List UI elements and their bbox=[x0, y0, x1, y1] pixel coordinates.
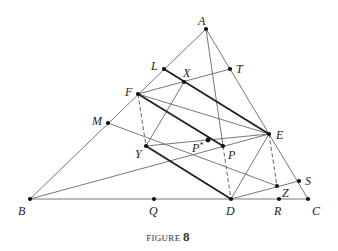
segment-d-e bbox=[231, 134, 269, 199]
point-s bbox=[297, 179, 301, 183]
label-b: B bbox=[18, 204, 26, 218]
point-pstar bbox=[206, 138, 211, 143]
segment-d-s bbox=[231, 181, 299, 199]
figure-8-diagram: ABCDEFLMTXYPP*QRSZ FIGURE 8 bbox=[0, 0, 338, 251]
point-e bbox=[267, 132, 271, 136]
label-q: Q bbox=[149, 204, 158, 218]
label-f: F bbox=[124, 85, 133, 99]
segment-a-p bbox=[206, 29, 223, 146]
label-p: P bbox=[227, 148, 236, 162]
point-c bbox=[306, 197, 310, 201]
segment-a-b bbox=[30, 29, 206, 199]
label-x: X bbox=[182, 66, 191, 80]
point-q bbox=[152, 197, 156, 201]
segment-l-e bbox=[164, 69, 269, 134]
point-t bbox=[228, 67, 232, 71]
figure-caption: FIGURE 8 bbox=[146, 229, 190, 244]
point-b bbox=[28, 197, 32, 201]
label-z: Z bbox=[282, 186, 289, 200]
label-t: T bbox=[236, 62, 244, 76]
segment-a-c bbox=[206, 29, 308, 199]
point-f bbox=[136, 92, 140, 96]
point-x bbox=[182, 80, 186, 84]
point-p bbox=[221, 144, 225, 148]
label-l: L bbox=[150, 59, 158, 73]
label-s: S bbox=[305, 174, 311, 188]
point-z bbox=[275, 184, 279, 188]
figure-number: 8 bbox=[183, 229, 190, 244]
point-l bbox=[162, 67, 166, 71]
label-m: M bbox=[91, 114, 103, 128]
label-c: C bbox=[312, 204, 321, 218]
label-a: A bbox=[197, 14, 206, 28]
label-d: D bbox=[225, 204, 235, 218]
point-r bbox=[277, 197, 281, 201]
label-e: E bbox=[275, 128, 284, 142]
segment-f-e bbox=[138, 94, 269, 134]
label-pstar: P* bbox=[191, 141, 203, 155]
segment-y-d bbox=[146, 146, 231, 199]
point-d bbox=[229, 197, 233, 201]
label-y: Y bbox=[135, 147, 143, 161]
point-m bbox=[106, 121, 110, 125]
line-segments bbox=[30, 29, 308, 199]
label-r: R bbox=[273, 204, 282, 218]
segment-f-y bbox=[138, 94, 146, 146]
segment-x-y bbox=[146, 82, 184, 146]
segment-b-e bbox=[30, 134, 269, 199]
point-y bbox=[144, 144, 148, 148]
